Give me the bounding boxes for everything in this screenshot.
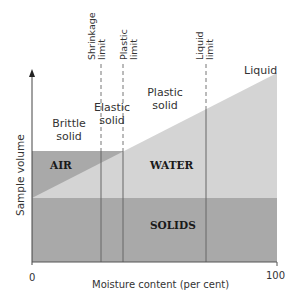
state-brittle-2: solid [56, 130, 82, 143]
state-liquid: Liquid [244, 64, 277, 77]
air-label: AIR [49, 159, 72, 171]
shrinkage-limit-label-2: limit [96, 39, 107, 60]
water-label: WATER [149, 159, 194, 171]
state-elastic-1: Elastic [94, 101, 130, 114]
state-brittle-1: Brittle [52, 117, 86, 130]
y-axis-arrow-icon [29, 69, 35, 77]
soil-consistency-diagram: Shrinkage limit Plastic limit Liquid lim… [0, 0, 299, 301]
state-plastic-1: Plastic [147, 86, 183, 99]
x-tick-0: 0 [29, 272, 35, 283]
x-axis-label: Moisture content (per cent) [92, 279, 229, 290]
liquid-limit-label-2: limit [204, 39, 215, 60]
state-plastic-2: solid [152, 99, 178, 112]
state-elastic-2: solid [99, 114, 125, 127]
plastic-limit-label-2: limit [128, 39, 139, 60]
y-axis-label: Sample volume [14, 134, 26, 216]
x-tick-100: 100 [266, 270, 285, 281]
solids-label: SOLIDS [150, 219, 196, 231]
